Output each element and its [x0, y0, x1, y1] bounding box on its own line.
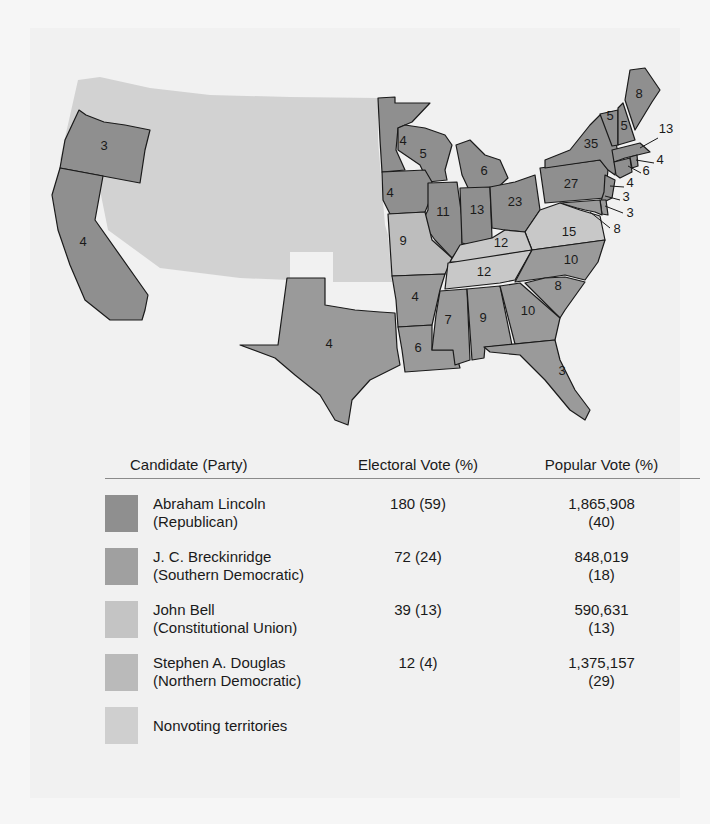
state-label-mississippi: 7 [444, 312, 451, 327]
results-legend-table: Candidate (Party) Electoral Vote (%) Pop… [105, 450, 700, 744]
state-label-indiana: 13 [470, 202, 484, 217]
territories-label: Nonvoting territories [153, 717, 503, 735]
state-label-ohio: 23 [508, 194, 522, 209]
electoral-map: 3445641113232735558134643381591212108479… [0, 0, 710, 440]
popular-vote: 1,865,908 [503, 495, 700, 513]
legend-row-douglas: Stephen A. Douglas (Northern Democratic)… [105, 654, 700, 691]
candidate-party: (Southern Democratic) [153, 566, 333, 584]
us-map-svg: 3445641113232735558134643381591212108479… [0, 0, 710, 440]
state-label-south-carolina: 8 [554, 278, 561, 293]
electoral-vote: 72 (24) [333, 548, 503, 566]
popular-vote-pct: (18) [503, 566, 700, 584]
state-label-louisiana: 6 [414, 340, 421, 355]
legend-row-bell: John Bell (Constitutional Union) 39 (13)… [105, 601, 700, 638]
header-popular-vote: Popular Vote (%) [503, 456, 700, 473]
state-label-massachusetts: 13 [659, 121, 673, 136]
candidate-name: John Bell [153, 601, 333, 619]
legend-row-breckinridge: J. C. Breckinridge (Southern Democratic)… [105, 548, 700, 585]
state-label-california: 4 [79, 234, 86, 249]
state-label-north-carolina: 10 [564, 252, 578, 267]
candidate-name: J. C. Breckinridge [153, 548, 333, 566]
legend-header-row: Candidate (Party) Electoral Vote (%) Pop… [105, 450, 700, 479]
swatch-douglas [105, 654, 138, 691]
state-rhode-island [630, 155, 638, 168]
state-texas [240, 278, 400, 425]
state-label-minnesota: 4 [399, 133, 406, 148]
state-label-florida: 3 [558, 363, 565, 378]
state-label-oregon: 3 [100, 138, 107, 153]
state-label-georgia: 10 [521, 303, 535, 318]
state-label-arkansas: 4 [411, 289, 418, 304]
popular-vote: 1,375,157 [503, 654, 700, 672]
popular-vote: 848,019 [503, 548, 700, 566]
electoral-vote: 39 (13) [333, 601, 503, 619]
candidate-name: Abraham Lincoln [153, 495, 333, 513]
leader-line [640, 138, 658, 148]
state-label-maryland: 3 [626, 205, 633, 220]
state-label-pennsylvania: 27 [564, 176, 578, 191]
header-electoral-vote: Electoral Vote (%) [333, 456, 503, 473]
state-label-wisconsin: 5 [419, 146, 426, 161]
popular-vote-pct: (40) [503, 513, 700, 531]
state-label-virginia: 15 [562, 224, 576, 239]
state-label-new-york: 35 [584, 136, 598, 151]
electoral-vote: 180 (59) [333, 495, 503, 513]
swatch-lincoln [105, 495, 138, 532]
state-label-tennessee: 12 [477, 264, 491, 279]
swatch-bell [105, 601, 138, 638]
state-label-illinois: 11 [436, 204, 450, 219]
candidate-party: (Northern Democratic) [153, 672, 333, 690]
state-label-maryland-dc: 8 [613, 221, 620, 236]
state-label-missouri: 9 [399, 233, 406, 248]
swatch-breckinridge [105, 548, 138, 585]
state-label-delaware: 3 [622, 189, 629, 204]
state-florida [484, 340, 590, 420]
state-label-texas: 4 [325, 336, 332, 351]
header-candidate: Candidate (Party) [105, 456, 333, 473]
state-label-new-hampshire: 5 [620, 118, 627, 133]
state-label-maine: 8 [635, 86, 642, 101]
state-label-rhode-island: 4 [656, 152, 663, 167]
popular-vote-pct: (29) [503, 672, 700, 690]
state-label-michigan: 6 [480, 163, 487, 178]
popular-vote: 590,631 [503, 601, 700, 619]
candidate-party: (Republican) [153, 513, 333, 531]
candidate-party: (Constitutional Union) [153, 619, 333, 637]
electoral-vote: 12 (4) [333, 654, 503, 672]
popular-vote-pct: (13) [503, 619, 700, 637]
legend-row-lincoln: Abraham Lincoln (Republican) 180 (59) 1,… [105, 495, 700, 532]
state-label-kentucky: 12 [494, 235, 508, 250]
swatch-territories [105, 707, 138, 744]
state-label-connecticut: 6 [642, 163, 649, 178]
candidate-name: Stephen A. Douglas [153, 654, 333, 672]
state-label-vermont: 5 [606, 108, 613, 123]
state-label-alabama: 9 [479, 310, 486, 325]
legend-row-territories: Nonvoting territories [105, 707, 700, 744]
state-label-iowa: 4 [386, 185, 393, 200]
state-label-new-jersey: 4 [626, 175, 633, 190]
